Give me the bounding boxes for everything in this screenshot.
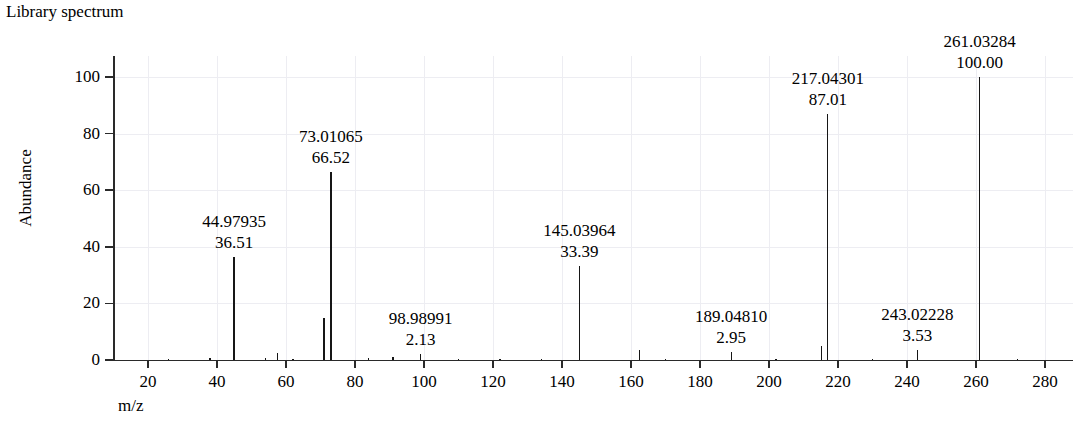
y-axis-tick bbox=[105, 133, 114, 135]
x-axis-tick bbox=[837, 360, 838, 368]
x-axis-tick-label: 260 bbox=[946, 372, 1006, 392]
peak-abundance-value: 36.51 bbox=[149, 232, 319, 253]
spectrum-peak bbox=[168, 359, 169, 360]
spectrum-peak bbox=[639, 350, 640, 360]
y-axis-tick-value: 40 bbox=[40, 238, 100, 255]
x-axis-tick bbox=[768, 360, 769, 368]
spectrum-peak bbox=[323, 318, 324, 360]
spectrum-peak bbox=[827, 114, 828, 360]
peak-label: 217.0430187.01 bbox=[743, 68, 913, 110]
spectrum-peak bbox=[731, 352, 732, 360]
x-axis-tick-label: 140 bbox=[532, 372, 592, 392]
peak-label: 98.989912.13 bbox=[336, 308, 506, 350]
x-axis-tick bbox=[147, 360, 148, 368]
peak-mz-value: 44.97935 bbox=[149, 211, 319, 232]
spectrum-peak bbox=[233, 257, 234, 360]
chart-title: Library spectrum bbox=[6, 2, 124, 22]
y-axis-tick-value: 100 bbox=[40, 68, 100, 85]
y-axis-tick bbox=[105, 76, 114, 78]
spectrum-peak bbox=[541, 359, 542, 360]
peak-label: 189.048102.95 bbox=[646, 306, 816, 348]
x-axis-tick-label: 220 bbox=[808, 372, 868, 392]
peak-label: 73.0106566.52 bbox=[246, 126, 416, 168]
x-axis-tick bbox=[285, 360, 286, 368]
y-axis-tick bbox=[105, 246, 114, 248]
peak-mz-value: 261.03284 bbox=[895, 31, 1065, 52]
y-axis-tick-label: 60 bbox=[38, 181, 100, 198]
x-axis-tick-label: 80 bbox=[325, 372, 385, 392]
x-axis-tick bbox=[354, 360, 355, 368]
gridline-vertical bbox=[148, 56, 149, 360]
x-axis-tick bbox=[975, 360, 976, 368]
x-axis-tick bbox=[561, 360, 562, 368]
y-axis-tick-value: 60 bbox=[40, 181, 100, 198]
peak-abundance-value: 100.00 bbox=[895, 52, 1065, 73]
y-axis-tick-value: 0 bbox=[40, 351, 100, 368]
gridline-vertical bbox=[286, 56, 287, 360]
y-axis-tick-label: 100 bbox=[38, 68, 100, 85]
y-axis-tick-label: 0 bbox=[38, 351, 100, 368]
gridline-vertical bbox=[217, 56, 218, 360]
y-axis-tick-value: 80 bbox=[40, 125, 100, 142]
spectrum-peak bbox=[330, 172, 331, 360]
peak-mz-value: 73.01065 bbox=[246, 126, 416, 147]
y-axis-tick-label: 40 bbox=[38, 238, 100, 255]
x-axis-tick-label: 180 bbox=[670, 372, 730, 392]
x-axis-tick-label: 160 bbox=[601, 372, 661, 392]
y-axis-tick bbox=[105, 189, 114, 191]
peak-mz-value: 145.03964 bbox=[494, 220, 664, 241]
spectrum-peak bbox=[872, 359, 873, 360]
peak-label: 145.0396433.39 bbox=[494, 220, 664, 262]
peak-label: 243.022283.53 bbox=[832, 304, 1002, 346]
y-axis-tick bbox=[105, 359, 114, 361]
gridline-vertical bbox=[631, 56, 632, 360]
spectrum-peak bbox=[392, 357, 393, 360]
x-axis-line bbox=[113, 360, 1073, 361]
spectrum-peak bbox=[209, 358, 210, 360]
peak-abundance-value: 33.39 bbox=[494, 241, 664, 262]
y-axis-tick bbox=[105, 303, 114, 305]
peak-abundance-value: 2.95 bbox=[646, 327, 816, 348]
peak-label: 44.9793536.51 bbox=[149, 211, 319, 253]
gridline-vertical bbox=[562, 56, 563, 360]
peak-abundance-value: 3.53 bbox=[832, 325, 1002, 346]
y-axis-tick-label: 20 bbox=[38, 294, 100, 311]
x-axis-tick bbox=[216, 360, 217, 368]
y-axis-tick-label: 80 bbox=[38, 125, 100, 142]
peak-mz-value: 243.02228 bbox=[832, 304, 1002, 325]
x-axis-tick-label: 240 bbox=[877, 372, 937, 392]
x-axis-tick bbox=[906, 360, 907, 368]
gridline-horizontal bbox=[113, 77, 1073, 78]
peak-abundance-value: 2.13 bbox=[336, 329, 506, 350]
x-axis-tick-label: 40 bbox=[187, 372, 247, 392]
spectrum-peak bbox=[821, 346, 822, 360]
x-axis-tick bbox=[1044, 360, 1045, 368]
x-axis-tick-label: 120 bbox=[463, 372, 523, 392]
x-axis-tick-label: 200 bbox=[739, 372, 799, 392]
y-axis-tick-value: 20 bbox=[40, 294, 100, 311]
spectrum-peak bbox=[420, 354, 421, 360]
spectrum-peak bbox=[579, 266, 580, 360]
peak-mz-value: 189.04810 bbox=[646, 306, 816, 327]
x-axis-tick bbox=[630, 360, 631, 368]
y-axis-line bbox=[113, 56, 115, 361]
gridline-horizontal bbox=[113, 190, 1073, 191]
spectrum-peak bbox=[458, 359, 459, 360]
x-axis-tick bbox=[492, 360, 493, 368]
x-axis-tick-label: 280 bbox=[1015, 372, 1075, 392]
spectrum-peak bbox=[499, 359, 500, 360]
spectrum-peak bbox=[265, 358, 266, 360]
gridline-vertical bbox=[1045, 56, 1046, 360]
peak-mz-value: 217.04301 bbox=[743, 68, 913, 89]
peak-label: 261.03284100.00 bbox=[895, 31, 1065, 73]
x-axis-tick-label: 100 bbox=[394, 372, 454, 392]
spectrum-peak bbox=[1017, 359, 1018, 360]
spectrum-peak bbox=[368, 358, 369, 360]
peak-abundance-value: 66.52 bbox=[246, 147, 416, 168]
peak-abundance-value: 87.01 bbox=[743, 89, 913, 110]
x-axis-tick-label: 60 bbox=[256, 372, 316, 392]
x-axis-label: m/z bbox=[118, 396, 144, 416]
x-axis-tick-label: 20 bbox=[118, 372, 178, 392]
mass-spectrum-figure: Library spectrum Abundance 020406080100 … bbox=[0, 0, 1084, 422]
y-axis-label: Abundance bbox=[16, 118, 36, 258]
